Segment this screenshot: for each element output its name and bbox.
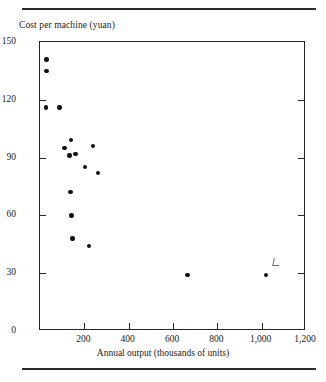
y-tick-label: 30 [0, 267, 16, 277]
data-point [83, 165, 87, 169]
data-point [69, 138, 73, 142]
bottom-rule [22, 368, 316, 370]
data-point [70, 236, 74, 240]
x-tick-label: 1,200 [294, 334, 315, 344]
x-tick-label: 200 [76, 334, 90, 344]
x-tick [173, 323, 174, 329]
data-point [69, 213, 73, 217]
y-tick-right [298, 158, 304, 159]
x-tick [84, 323, 85, 329]
y-tick-label: 150 [0, 36, 16, 46]
x-tick-group [40, 42, 304, 329]
data-point [87, 244, 91, 248]
y-tick-label: 0 [0, 325, 16, 335]
scatter-points [40, 42, 304, 329]
plot-area [39, 41, 305, 330]
data-point [62, 146, 66, 150]
data-point [264, 273, 268, 277]
x-tick [217, 323, 218, 329]
y-tick-right [298, 215, 304, 216]
data-point [67, 153, 71, 157]
x-tick-label: 400 [121, 334, 135, 344]
top-rule [22, 8, 316, 10]
x-tick-label: 600 [165, 334, 179, 344]
data-point [44, 105, 48, 109]
x-tick [129, 323, 130, 329]
y-tick-group [40, 42, 304, 329]
y-tick-right [298, 273, 304, 274]
x-tick [262, 323, 263, 329]
y-tick-label: 60 [0, 209, 16, 219]
annotation-layer [40, 42, 304, 329]
data-point [44, 69, 48, 73]
scan-mark-icon [272, 258, 281, 266]
y-tick-label: 120 [0, 94, 16, 104]
data-point [68, 190, 72, 194]
x-tick-label: 800 [209, 334, 223, 344]
y-tick [40, 215, 46, 216]
x-tick-label: 1,000 [250, 334, 271, 344]
y-tick-label: 90 [0, 152, 16, 162]
data-point [44, 57, 48, 61]
x-axis-caption: Annual output (thousands of units) [0, 348, 326, 358]
data-point [57, 105, 61, 109]
y-tick [40, 158, 46, 159]
figure-container: Cost per machine (yuan) 0306090120150 20… [0, 0, 326, 382]
data-point [185, 273, 189, 277]
data-point [91, 144, 95, 148]
y-tick [40, 100, 46, 101]
y-tick [40, 273, 46, 274]
data-point [96, 171, 100, 175]
data-point [73, 152, 77, 156]
y-tick-right [298, 100, 304, 101]
y-axis-caption: Cost per machine (yuan) [19, 20, 115, 30]
